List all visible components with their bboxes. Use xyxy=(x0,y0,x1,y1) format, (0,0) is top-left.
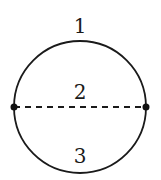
label-arc-top: 1 xyxy=(74,14,87,38)
label-chord: 2 xyxy=(74,80,87,104)
left-node-dot xyxy=(11,104,18,111)
label-arc-bottom: 3 xyxy=(74,144,87,168)
right-node-dot xyxy=(143,104,150,111)
circle-chord-diagram: 1 2 3 xyxy=(0,0,161,180)
